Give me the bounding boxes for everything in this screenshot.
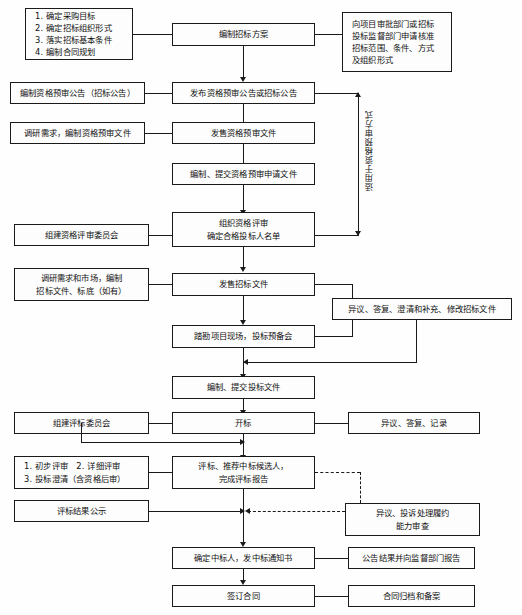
node-line: 踏勘项目现场，投标预备会	[194, 330, 292, 342]
connector-dashed-recommend-right	[315, 472, 360, 473]
connector-sitesurvey-to-riser	[315, 336, 353, 337]
connector-review-down	[243, 247, 244, 269]
connector-plan-to-approval	[315, 34, 342, 35]
node-line: 确定中标人，发中标通知书	[194, 552, 292, 564]
node-eval-recommend: 评标、推荐中标候选人， 完成评标报告	[172, 456, 315, 489]
node-line: 3. 投标澄清（含资格后审）	[24, 473, 125, 485]
node-eval-result-publicity: 评标结果公示	[14, 500, 149, 522]
connector-selldocs-to-riser	[315, 284, 353, 285]
connector-trunk-to-winner	[243, 511, 244, 545]
connector-sitesurvey-riser-up	[352, 320, 353, 337]
node-objection-clarify: 异议、答复、澄清和补充、修改招标文件	[332, 298, 512, 320]
connector-committee-to-review	[149, 235, 172, 236]
node-sign-contract: 签订合同	[172, 585, 315, 607]
node-line: 评标、推荐中标候选人，	[198, 460, 288, 472]
connector-plan-down	[243, 46, 244, 79]
node-line: 异议、投诉处理履约	[376, 507, 450, 519]
node-line: 完成评标报告	[219, 473, 268, 485]
node-form-prequal-committee: 组建资格评审委员会	[14, 224, 149, 246]
arrow-rail-top	[355, 92, 361, 97]
node-line: 编制资格预审公告（招标公告）	[20, 87, 135, 99]
node-line: 签订合同	[227, 590, 260, 602]
node-survey-market: 调研需求和市场，编制 招标文件、标底（如有）	[14, 268, 149, 301]
node-purchase-goals: 1. 确定采购目标 2. 确定招标组织形式 3. 落实招标基本条件 4. 编制合…	[25, 8, 133, 60]
connector-goals-to-plan	[133, 34, 172, 35]
arrow-dashed-complaint-to-trunk	[245, 508, 250, 514]
node-line: 确定合格投标人名单	[207, 230, 281, 242]
node-line: 发售资格预审文件	[211, 127, 277, 139]
connector-survey-to-sell	[145, 133, 172, 134]
node-line: 公告结果并向监督部门报告	[362, 552, 460, 564]
node-line: 编制招标方案	[219, 28, 268, 40]
connector-publicity-to-trunk	[149, 511, 244, 512]
connector-winner-to-announce	[315, 558, 348, 559]
node-line: 调研需求，编制资格预审文件	[24, 127, 131, 139]
connector-submit-down	[243, 185, 244, 212]
connector-objection-to-trunk	[244, 362, 417, 363]
node-line: 1. 确定采购目标	[35, 10, 95, 22]
node-publish-notice: 发布资格预审公告或招标公告	[172, 82, 315, 104]
node-line: 评标结果公示	[57, 505, 106, 517]
node-line: 投标监督部门申请核准	[352, 30, 434, 42]
connector-review-to-rail	[315, 235, 359, 236]
connector-sell-docs-down	[243, 296, 244, 322]
node-line: 4. 编制合同规划	[35, 46, 95, 58]
node-line: 招标文件、标底（如有）	[36, 285, 126, 297]
node-line: 发售招标文件	[219, 278, 268, 290]
node-line: 合同归档和备案	[383, 590, 440, 602]
node-site-survey: 踏勘项目现场，投标预备会	[172, 325, 315, 348]
node-complaint-capability: 异议、投诉处理履约 能力审查	[345, 503, 480, 536]
node-line: 及组织形式	[352, 54, 393, 66]
connector-evalcom-down	[81, 423, 82, 442]
node-line: 向项目审批部门或招标	[352, 18, 434, 30]
node-approval-apply: 向项目审批部门或招标 投标监督部门申请核准 招标范围、条件、方式 及组织形式	[342, 12, 452, 72]
node-line: 招标范围、条件、方式	[352, 42, 434, 54]
connector-evalcom-to-trunk	[81, 442, 243, 443]
rail-label-prequal: 适用于资格预审方式	[364, 110, 376, 191]
node-line: 异议、答复、澄清和补充、修改招标文件	[348, 303, 496, 315]
node-line: 组织资格评审	[219, 217, 268, 229]
arrow-review-down	[240, 267, 246, 272]
node-line: 3. 落实招标基本条件	[35, 34, 112, 46]
flowchart-canvas: 1. 确定采购目标 2. 确定招标组织形式 3. 落实招标基本条件 4. 编制合…	[0, 0, 522, 615]
node-line: 编制、提交资格预审申请文件	[190, 168, 297, 180]
node-bid-opening: 开标	[172, 412, 315, 434]
node-determine-winner: 确定中标人，发中标通知书	[172, 547, 315, 569]
connector-market-to-sell-docs	[149, 284, 172, 285]
connector-prepare-to-publish	[145, 93, 172, 94]
rail-vertical-prequal	[358, 93, 359, 235]
node-objection-reply-record: 异议、答复、记录	[348, 412, 480, 434]
node-line: 调研需求和市场，编制	[41, 272, 123, 284]
connector-evalcom-to-opening	[149, 423, 172, 424]
node-line: 开标	[235, 417, 251, 429]
node-prepare-prequal-notice: 编制资格预审公告（招标公告）	[10, 82, 145, 104]
connector-dashed-complaint-to-trunk	[248, 511, 345, 512]
node-announce-report: 公告结果并向监督部门报告	[348, 547, 475, 569]
node-line: 编制、提交投标文件	[207, 381, 281, 393]
connector-dashed-riser-down	[360, 472, 361, 503]
connector-opening-to-record	[315, 423, 348, 424]
node-line: 发布资格预审公告或招标公告	[190, 87, 297, 99]
node-organize-prequal-review: 组织资格评审 确定合格投标人名单	[172, 212, 315, 247]
node-tender-plan: 编制招标方案	[172, 23, 315, 46]
connector-sign-to-archive	[315, 596, 348, 597]
node-line: 2. 确定招标组织形式	[35, 22, 112, 34]
connector-publish-to-rail	[315, 93, 359, 94]
connector-objection-down	[416, 320, 417, 362]
connector-evalsteps-to-recommend	[149, 472, 172, 473]
node-prepare-bid-docs: 编制、提交投标文件	[172, 376, 315, 399]
node-line: 1. 初步评审 2. 详细评审	[24, 460, 120, 472]
node-line: 异议、答复、记录	[381, 417, 447, 429]
node-sell-prequal-docs: 发售资格预审文件	[172, 122, 315, 144]
connector-riser-to-objection	[352, 284, 353, 298]
node-eval-steps: 1. 初步评审 2. 详细评审 3. 投标澄清（含资格后审）	[14, 456, 149, 489]
node-line: 组建资格评审委员会	[45, 229, 119, 241]
node-archive-contract: 合同归档和备案	[348, 585, 475, 607]
node-survey-prequal-docs: 调研需求，编制资格预审文件	[10, 122, 145, 144]
node-submit-prequal-app: 编制、提交资格预审申请文件	[172, 163, 315, 185]
node-sell-tender-docs: 发售招标文件	[172, 273, 315, 296]
node-line: 能力审查	[396, 520, 429, 532]
